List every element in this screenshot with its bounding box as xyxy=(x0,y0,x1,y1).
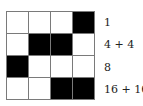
grid-cell-r4-c3-filled xyxy=(51,78,73,100)
grid-cell-r2-c1-empty xyxy=(7,34,29,56)
grid-cell-r3-c2-empty xyxy=(29,56,51,78)
grid-cell-r1-c3-empty xyxy=(51,12,73,34)
grid-cell-r2-c2-filled xyxy=(29,34,51,56)
grid-cell-r2-c3-filled xyxy=(51,34,73,56)
grid-cell-r3-c1-filled xyxy=(7,56,29,78)
grid-cell-r3-c3-empty xyxy=(51,56,73,78)
row-label-3: 8 xyxy=(104,62,111,74)
grid-cell-r4-c4-filled xyxy=(73,78,95,100)
grid-cell-r4-c2-empty xyxy=(29,78,51,100)
row-label-4: 16 + 16 xyxy=(104,84,143,96)
grid-cell-r1-c2-empty xyxy=(29,12,51,34)
row-label-1: 1 xyxy=(104,17,111,29)
grid-cell-r1-c1-empty xyxy=(7,12,29,34)
row-label-2: 4 + 4 xyxy=(104,39,134,51)
grid-cell-r3-c4-empty xyxy=(73,56,95,78)
grid-cell-r2-c4-empty xyxy=(73,34,95,56)
grid-cell-r4-c1-empty xyxy=(7,78,29,100)
row-labels: 1 4 + 4 8 16 + 16 xyxy=(104,11,143,100)
binary-grid xyxy=(6,11,95,100)
grid-cell-r1-c4-filled xyxy=(73,12,95,34)
